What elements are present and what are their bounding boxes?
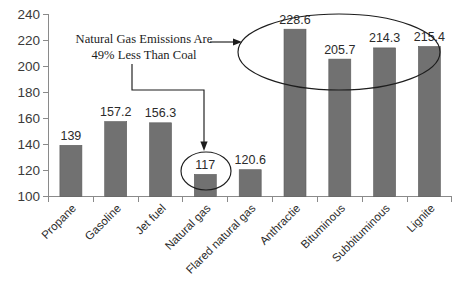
table-row <box>329 59 351 196</box>
y-axis-ticks <box>43 15 49 197</box>
y-tick-label: 220 <box>17 33 40 48</box>
bar-value-label: 205.7 <box>324 43 355 57</box>
natural-gas-callout: Natural Gas Emissions Are 49% Less Than … <box>76 32 213 62</box>
table-row <box>284 29 306 196</box>
table-row <box>60 145 82 196</box>
y-tick-label: 200 <box>17 59 40 74</box>
callout-line-2: 49% Less Than Coal <box>91 48 197 62</box>
x-tick-label: Propane <box>39 202 78 241</box>
y-tick-label: 140 <box>17 137 40 152</box>
table-row <box>374 48 396 197</box>
x-tick-label: Anthractie <box>257 202 302 247</box>
table-row <box>194 174 216 196</box>
x-tick-label: Lignite <box>404 202 436 234</box>
x-tick-label: Jet fuel <box>133 202 168 237</box>
chart-canvas: 240 220 200 180 160 140 120 100 <box>0 0 462 298</box>
y-tick-label: 100 <box>17 189 40 204</box>
table-row <box>105 122 127 197</box>
bar-value-label: 215.4 <box>414 30 445 44</box>
bar-value-label: 214.3 <box>369 31 400 45</box>
bar-value-label: 156.3 <box>145 106 176 120</box>
table-row <box>239 170 261 197</box>
bar-value-label: 139 <box>60 129 81 143</box>
y-tick-label: 240 <box>17 7 40 22</box>
y-tick-label: 160 <box>17 111 40 126</box>
x-axis-category-labels: Propane Gasoline Jet fuel Natural gas Fl… <box>39 202 437 276</box>
x-tick-label: Gasoline <box>83 202 124 243</box>
arrowhead-icon <box>233 38 242 45</box>
emissions-bar-chart: 240 220 200 180 160 140 120 100 <box>0 0 462 298</box>
bar-value-label: 120.6 <box>235 153 266 167</box>
x-axis-ticks <box>49 197 452 203</box>
bar-value-label: 117 <box>195 158 215 172</box>
table-row <box>150 123 172 197</box>
y-tick-label: 120 <box>17 163 40 178</box>
arrowhead-icon <box>200 142 207 152</box>
y-tick-label: 180 <box>17 85 40 100</box>
bar-value-label: 157.2 <box>100 105 131 119</box>
callout-line-1: Natural Gas Emissions Are <box>76 32 213 46</box>
callout-arrow-to-coal <box>210 38 242 45</box>
x-tick-label: Bituminous <box>299 202 348 251</box>
y-axis-tick-labels: 240 220 200 180 160 140 120 100 <box>17 7 40 204</box>
